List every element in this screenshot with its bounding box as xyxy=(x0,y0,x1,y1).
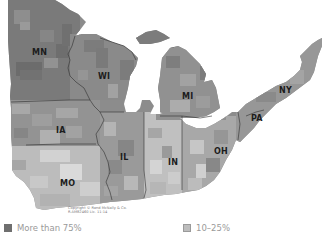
state-label-in: IN xyxy=(168,158,178,167)
legend-item-10-25: 10–25% xyxy=(183,222,230,234)
state-label-ny: NY xyxy=(279,86,292,95)
state-label-mo: MO xyxy=(60,179,75,188)
legend-swatch-dark xyxy=(4,224,12,232)
state-label-pa: PA xyxy=(251,114,263,123)
legend-label: 10–25% xyxy=(196,223,230,233)
state-label-mi: MI xyxy=(182,92,193,101)
state-label-mn: MN xyxy=(32,48,47,57)
map-copyright: Copyright © Rand McNally & Co. R.AM82460… xyxy=(68,206,127,215)
legend-swatch-light xyxy=(183,224,191,232)
legend-label: More than 75% xyxy=(17,223,82,233)
state-label-wi: WI xyxy=(98,72,110,81)
map-legend: More than 75% 10–25% xyxy=(0,222,328,236)
state-label-ia: IA xyxy=(56,126,66,135)
choropleth-map: MN WI MI NY PA IA IL IN OH MO xyxy=(0,0,328,218)
land-fill xyxy=(0,0,328,218)
state-label-oh: OH xyxy=(214,147,228,156)
map-canvas: MN WI MI NY PA IA IL IN OH MO xyxy=(0,0,328,218)
copyright-line-2: R.AM82460 Lic. 11-14 xyxy=(68,210,127,214)
legend-item-more-than-75: More than 75% xyxy=(4,222,82,234)
state-label-il: IL xyxy=(120,153,128,162)
